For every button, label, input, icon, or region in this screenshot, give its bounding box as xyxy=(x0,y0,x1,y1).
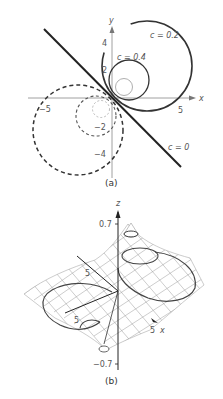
z-axis-label: z xyxy=(115,199,121,208)
x-axis-label-3d: x xyxy=(159,326,165,335)
trough-level-curve-small xyxy=(99,346,109,352)
tick-z-bottom: −0.7 xyxy=(93,360,112,369)
caption-b: (b) xyxy=(105,376,118,386)
tick-z-top: 0.7 xyxy=(99,220,112,229)
surface-peak xyxy=(124,223,138,237)
tick-y-5b: 5 xyxy=(74,316,79,325)
peak-level-curve-mid xyxy=(122,248,158,264)
surface-mesh xyxy=(4,191,223,360)
x-axis-3d-neg xyxy=(65,291,118,313)
z-axis-arrow-icon xyxy=(116,210,121,218)
tick-y-5a: 5 xyxy=(85,269,90,278)
surface-plot: z 0.7 −0.7 5 5 5 x (b) xyxy=(0,0,223,399)
tick-x-5: 5 xyxy=(150,326,155,335)
